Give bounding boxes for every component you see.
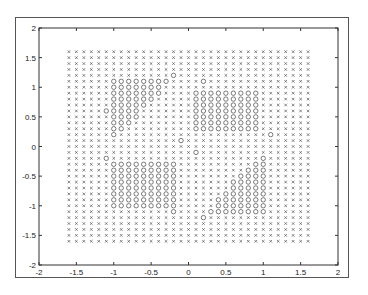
y-tick-label: 1 (32, 83, 37, 92)
y-tick-label: -0.5 (22, 172, 36, 181)
x-tick-label: 0 (186, 268, 191, 277)
x-tick-label: -2 (35, 268, 43, 277)
x-tick-label: 1.5 (295, 268, 307, 277)
y-tick-label: -2 (29, 261, 37, 270)
x-tick-label: -0.5 (144, 268, 158, 277)
x-tick-label: -1.5 (69, 268, 83, 277)
scatter-plot: -2-1.5-1-0.500.511.5221.510.50-0.5-1-1.5… (0, 0, 368, 295)
x-tick-label: 2 (336, 268, 341, 277)
y-tick-label: 2 (32, 24, 37, 33)
y-tick-label: -1.5 (22, 231, 36, 240)
y-tick-label: 0.5 (25, 113, 37, 122)
y-tick-label: 1.5 (25, 54, 37, 63)
axis-ticks: -2-1.5-1-0.500.511.5221.510.50-0.5-1-1.5… (22, 24, 341, 277)
y-tick-label: -1 (29, 202, 37, 211)
data-points (68, 50, 310, 242)
x-tick-label: -1 (110, 268, 118, 277)
x-tick-label: 1 (261, 268, 266, 277)
y-tick-label: 0 (32, 143, 37, 152)
x-tick-label: 0.5 (220, 268, 232, 277)
